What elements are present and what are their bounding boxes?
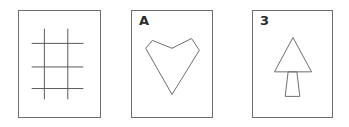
heart-polygon-outline <box>146 38 200 94</box>
heart-polygon-figure <box>132 11 212 117</box>
card-heart[interactable]: A <box>131 10 213 118</box>
tree-triangle-outline <box>274 38 311 72</box>
card-tree[interactable]: 3 <box>252 10 333 118</box>
grid-hash-figure <box>19 11 100 117</box>
card-grid[interactable] <box>18 10 101 118</box>
tree-trunk-outline <box>285 72 300 97</box>
figure-canvas: A 3 <box>0 0 349 127</box>
tree-arrow-figure <box>253 11 332 117</box>
